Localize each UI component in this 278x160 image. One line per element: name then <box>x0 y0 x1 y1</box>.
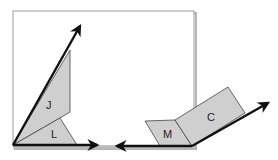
vector-diagram: J L M C <box>0 0 278 160</box>
label-c: C <box>207 111 215 123</box>
label-j: J <box>46 99 52 111</box>
label-l: L <box>51 128 57 140</box>
diagram-canvas: J L M C <box>0 0 278 160</box>
label-m: M <box>163 128 172 140</box>
